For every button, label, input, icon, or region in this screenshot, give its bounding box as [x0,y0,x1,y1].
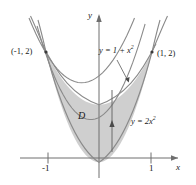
upper-curve-leader-line [117,60,128,80]
upper-curve-exponent: 2 [131,44,134,50]
x-axis-label: x [176,163,180,172]
lower-curve-equation-label: y = 2x2 [131,116,156,125]
point-label-left: (-1, 2) [11,47,32,56]
x-axis-arrowhead [171,155,178,160]
parabola-region-figure: (-1, 2) (1, 2) y = 1 + x2 y = 2x2 D y x … [0,0,196,185]
y-axis-arrowhead [96,14,101,22]
lower-curve-exponent: 2 [153,115,156,121]
upper-curve-equation-label: y = 1 + x2 [99,45,134,54]
region-label-D: D [78,111,85,121]
intersection-point-left [44,50,47,53]
x-tick-label-1: 1 [149,164,154,173]
figure-canvas [0,0,196,185]
y-axis-label: y [88,11,92,20]
x-tick-label-minus-1: -1 [42,164,50,173]
lower-curve-equation-text: y = 2x [131,116,153,126]
intersection-point-right [150,50,153,53]
upper-curve-equation-text: y = 1 + x [99,45,131,55]
point-label-right: (1, 2) [157,49,175,58]
